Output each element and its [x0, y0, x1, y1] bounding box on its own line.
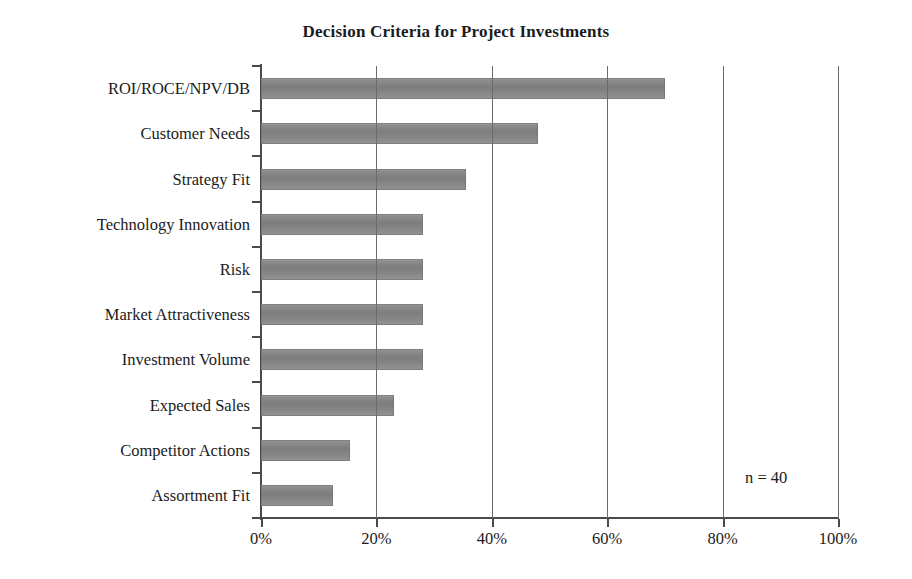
y-axis-label: Strategy Fit [0, 169, 250, 190]
y-axis-label: Risk [0, 259, 250, 280]
x-axis-tick-label: 0% [216, 529, 306, 549]
y-axis-tick [252, 65, 261, 67]
bar [261, 123, 538, 144]
x-axis-tick [492, 519, 494, 527]
x-axis-tick [607, 519, 609, 527]
y-axis-label: Expected Sales [0, 395, 250, 416]
bar [261, 485, 333, 506]
y-axis-tick [252, 246, 261, 248]
y-axis-label: Technology Innovation [0, 214, 250, 235]
y-axis-tick [252, 201, 261, 203]
gridline [723, 66, 724, 518]
bar [261, 169, 466, 190]
y-axis-label: Assortment Fit [0, 485, 250, 506]
y-axis-label: Investment Volume [0, 349, 250, 370]
x-axis-tick [261, 519, 263, 527]
x-axis-tick-label: 100% [793, 529, 883, 549]
y-axis-tick [252, 381, 261, 383]
y-axis-tick [252, 517, 261, 519]
x-axis-tick-label: 40% [447, 529, 537, 549]
x-axis-tick-label: 60% [562, 529, 652, 549]
gridline [376, 66, 377, 518]
y-axis-tick [252, 110, 261, 112]
bar [261, 78, 665, 99]
bar [261, 349, 423, 370]
gridline [838, 66, 839, 518]
gridline [607, 66, 608, 518]
bar [261, 304, 423, 325]
x-axis-tick [723, 519, 725, 527]
bar-chart: Decision Criteria for Project Investment… [0, 0, 912, 579]
x-axis-tick [838, 519, 840, 527]
gridline [492, 66, 493, 518]
y-axis-label: ROI/ROCE/NPV/DB [0, 78, 250, 99]
x-axis-tick [376, 519, 378, 527]
chart-title: Decision Criteria for Project Investment… [0, 22, 912, 42]
bar [261, 440, 350, 461]
plot-area [261, 66, 838, 518]
bar [261, 214, 423, 235]
x-axis-tick-label: 20% [331, 529, 421, 549]
sample-size-annotation: n = 40 [745, 468, 787, 488]
x-axis-tick-label: 80% [678, 529, 768, 549]
y-axis-tick [252, 155, 261, 157]
y-axis-label: Market Attractiveness [0, 304, 250, 325]
y-axis-tick [252, 472, 261, 474]
y-axis-tick [252, 336, 261, 338]
y-axis-tick [252, 291, 261, 293]
y-axis-label: Customer Needs [0, 123, 250, 144]
y-axis-tick [252, 427, 261, 429]
bar [261, 259, 423, 280]
bar [261, 395, 394, 416]
y-axis-label: Competitor Actions [0, 440, 250, 461]
